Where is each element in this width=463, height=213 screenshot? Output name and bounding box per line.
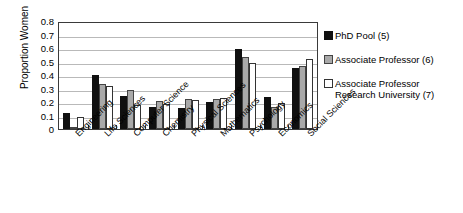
y-axis-tick-label: 0.5 [41, 58, 54, 68]
y-axis-tick-label: 0.1 [41, 112, 54, 122]
y-axis-tick-label: 0.6 [41, 44, 54, 54]
legend-label: PhD Pool (5) [335, 30, 389, 41]
legend-swatch-icon [324, 31, 333, 40]
bar-chart-figure: Proportion Women 0.80.70.60.50.40.30.20.… [0, 0, 463, 213]
y-axis-tick-label: 0.2 [41, 98, 54, 108]
bar[interactable] [63, 113, 70, 129]
legend-item[interactable]: Associate Professor Research University … [324, 78, 463, 100]
legend-item[interactable]: PhD Pool (5) [324, 30, 463, 41]
legend-item[interactable]: Associate Professor (6) [324, 54, 463, 65]
legend-label: Associate Professor (6) [335, 54, 434, 65]
y-axis-tick-label: 0.8 [41, 17, 54, 27]
y-axis-tick-label: 0.3 [41, 85, 54, 95]
bar[interactable] [306, 59, 313, 129]
legend-label: Associate Professor Research University … [335, 78, 434, 100]
y-axis-tick-label: 0.7 [41, 31, 54, 41]
x-axis-tick-labels: EngineeringLife SciencesComputer Science… [58, 130, 318, 210]
y-axis-tick-labels: 0.80.70.60.50.40.30.20.10 [26, 22, 54, 130]
legend-swatch-icon [324, 55, 333, 64]
bar-group [59, 23, 88, 129]
legend-swatch-icon [324, 79, 333, 88]
legend: PhD Pool (5)Associate Professor (6)Assoc… [324, 30, 463, 113]
y-axis-tick-label: 0 [49, 125, 54, 135]
y-axis-tick-label: 0.4 [41, 71, 54, 81]
